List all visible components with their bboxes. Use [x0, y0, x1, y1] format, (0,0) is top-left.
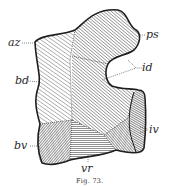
- region-bv: [37, 120, 72, 164]
- label-iv: iv: [149, 124, 159, 135]
- label-bd: bd: [15, 75, 29, 86]
- label-az: az: [8, 37, 20, 48]
- region-ps: [72, 10, 140, 64]
- label-id: id: [142, 62, 153, 73]
- label-ps: ps: [146, 29, 159, 40]
- region-bd: [35, 30, 75, 124]
- figure-caption: Fig. 73.: [76, 178, 104, 185]
- label-bv: bv: [14, 140, 27, 151]
- label-vr: vr: [81, 163, 92, 174]
